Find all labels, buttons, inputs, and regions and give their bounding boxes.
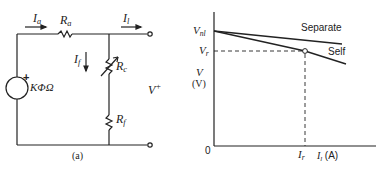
x-axis-label: Il (A) [317, 151, 338, 163]
label-rc: Rc [116, 60, 127, 74]
x-axis-unit: (A) [325, 150, 338, 161]
series-self [214, 31, 346, 64]
vr-sub: r [206, 49, 209, 58]
legend-separate: Separate [301, 23, 342, 33]
terminal-voltage-sup: + [155, 81, 161, 91]
vnl-symbol: V [193, 24, 200, 36]
terminal-top [148, 32, 152, 36]
label-rf-sub: f [123, 118, 125, 127]
rated-point-marker [303, 49, 308, 54]
label-if: If [74, 53, 80, 67]
label-ra-sub: a [67, 19, 71, 28]
circuit-caption: (a) [72, 151, 83, 161]
origin-label: 0 [205, 146, 211, 156]
graph [214, 12, 376, 146]
label-rc-sub: c [123, 65, 127, 74]
arrow-il-head [136, 25, 141, 29]
label-ra: Ra [60, 14, 72, 28]
label-rf: Rf [116, 113, 126, 127]
label-terminal-voltage: V+ [148, 82, 161, 96]
resistor-rf [106, 115, 112, 130]
tick-label-ir: Ir [298, 149, 305, 162]
source-polarity: + [23, 72, 29, 83]
circuit [6, 25, 152, 147]
tick-label-vr: Vr [199, 45, 209, 58]
label-il-sub: l [127, 17, 129, 26]
source-label: KΦΩ [30, 82, 54, 93]
arrow-if-head [84, 66, 88, 71]
label-ia: Ia [33, 12, 41, 26]
arrow-ia-head [41, 25, 46, 29]
tick-label-vnl: Vnl [193, 25, 206, 38]
x-axis-sub: l [320, 155, 322, 163]
label-ia-sub: a [37, 17, 41, 26]
y-axis-label-unit: (V) [192, 79, 206, 89]
y-axis-label-symbol: V [196, 67, 203, 78]
vr-symbol: V [199, 44, 206, 56]
ir-sub: r [302, 153, 305, 162]
resistor-ra [58, 31, 72, 37]
label-il: Il [123, 12, 129, 26]
legend-self: Self [328, 47, 345, 57]
label-if-sub: f [78, 58, 80, 67]
terminal-bottom [148, 143, 152, 147]
vnl-sub: nl [200, 29, 206, 38]
